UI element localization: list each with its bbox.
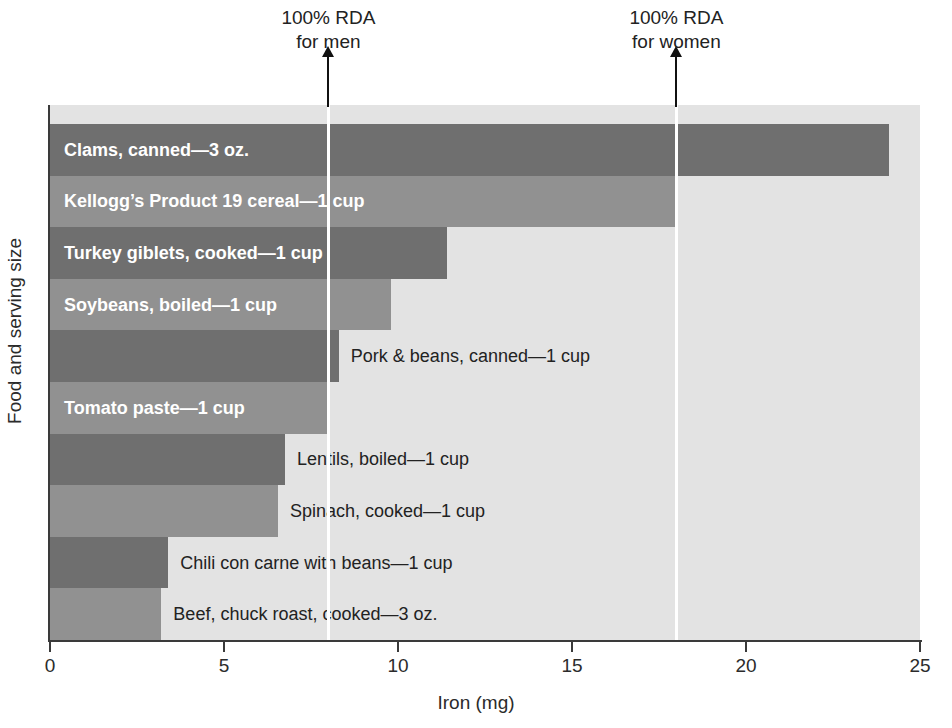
x-axis-title: Iron (mg) bbox=[0, 692, 952, 714]
bar-row[interactable]: Tomato paste—1 cup bbox=[50, 382, 920, 434]
x-tick-label-15: 15 bbox=[561, 655, 582, 677]
rda-women-caption-line1: 100% RDA bbox=[629, 6, 723, 30]
bar-label: Tomato paste—1 cup bbox=[64, 399, 245, 417]
x-axis-line bbox=[48, 640, 922, 642]
x-tick-label-5: 5 bbox=[219, 655, 230, 677]
bar-label: Chili con carne with beans—1 cup bbox=[180, 554, 452, 572]
x-tick-15 bbox=[571, 642, 573, 652]
bar-label: Lentils, boiled—1 cup bbox=[297, 450, 469, 468]
rda-men-caption-line1: 100% RDA bbox=[281, 6, 375, 30]
x-tick-10 bbox=[397, 642, 399, 652]
bar-label: Spinach, cooked—1 cup bbox=[290, 502, 485, 520]
x-tick-0 bbox=[49, 642, 51, 652]
rda-men-line bbox=[327, 105, 330, 640]
bar-row[interactable]: Spinach, cooked—1 cup bbox=[50, 485, 920, 537]
bar-row[interactable]: Chili con carne with beans—1 cup bbox=[50, 537, 920, 589]
bar-label: Soybeans, boiled—1 cup bbox=[64, 296, 277, 314]
rda-women-caption: 100% RDAfor women bbox=[629, 6, 723, 54]
bar-label: Pork & beans, canned—1 cup bbox=[351, 347, 590, 365]
bar-label: Beef, chuck roast, cooked—3 oz. bbox=[173, 605, 437, 623]
bar-row[interactable]: Soybeans, boiled—1 cup bbox=[50, 279, 920, 331]
bar-row[interactable]: Kellogg’s Product 19 cereal—1 cup bbox=[50, 176, 920, 228]
bar[interactable] bbox=[50, 434, 285, 486]
bar-row[interactable]: Beef, chuck roast, cooked—3 oz. bbox=[50, 588, 920, 640]
rda-women-caption-line2: for women bbox=[629, 30, 723, 54]
bar[interactable] bbox=[50, 485, 278, 537]
rda-men-caption-line2: for men bbox=[281, 30, 375, 54]
rda-women-arrow-icon bbox=[675, 55, 677, 107]
bar-row[interactable]: Pork & beans, canned—1 cup bbox=[50, 330, 920, 382]
iron-content-bar-chart: 0510152025 Clams, canned—3 oz.Kellogg’s … bbox=[0, 0, 952, 728]
rda-men-caption: 100% RDAfor men bbox=[281, 6, 375, 54]
bar[interactable] bbox=[50, 537, 168, 589]
y-axis-title: Food and serving size bbox=[4, 238, 26, 424]
bar-row[interactable]: Clams, canned—3 oz. bbox=[50, 124, 920, 176]
x-tick-label-25: 25 bbox=[909, 655, 930, 677]
rda-men-arrow-icon bbox=[327, 55, 329, 107]
x-tick-25 bbox=[919, 642, 921, 652]
bar-label: Clams, canned—3 oz. bbox=[64, 141, 249, 159]
rda-women-line bbox=[675, 105, 678, 640]
x-tick-label-20: 20 bbox=[735, 655, 756, 677]
bar-row[interactable]: Turkey giblets, cooked—1 cup bbox=[50, 227, 920, 279]
bar-row[interactable]: Lentils, boiled—1 cup bbox=[50, 434, 920, 486]
x-tick-label-10: 10 bbox=[387, 655, 408, 677]
bar-label: Turkey giblets, cooked—1 cup bbox=[64, 244, 323, 262]
bar[interactable] bbox=[50, 588, 161, 640]
bar-label: Kellogg’s Product 19 cereal—1 cup bbox=[64, 192, 364, 210]
bar[interactable] bbox=[50, 330, 339, 382]
bars-layer: Clams, canned—3 oz.Kellogg’s Product 19 … bbox=[50, 124, 920, 640]
x-tick-5 bbox=[223, 642, 225, 652]
x-tick-label-0: 0 bbox=[45, 655, 56, 677]
x-tick-20 bbox=[745, 642, 747, 652]
